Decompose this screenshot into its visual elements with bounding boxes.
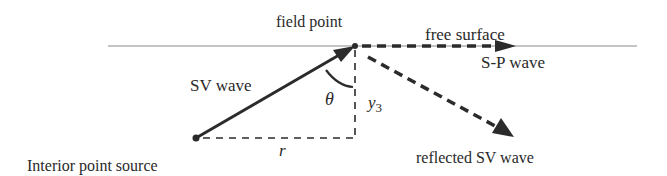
free-surface-label: free surface [425, 25, 505, 44]
y3-label: y3 [366, 93, 382, 115]
theta-label: θ [325, 89, 334, 109]
sp-wave-label: S-P wave [481, 53, 545, 72]
reflected-sv-arrowhead [492, 118, 514, 137]
field-point-label: field point [276, 13, 343, 31]
reflected-sv-ray [368, 57, 497, 127]
sv-wave-arrowhead [333, 46, 355, 62]
r-label: r [279, 141, 286, 160]
reflected-sv-label: reflected SV wave [416, 149, 534, 166]
sv-wave-label: SV wave [190, 76, 252, 95]
source-point-dot [193, 135, 200, 142]
source-label: Interior point source [27, 157, 158, 175]
theta-arc [326, 70, 353, 87]
field-point-dot [352, 43, 358, 49]
wave-diagram: field point free surface S-P wave SV wav… [0, 0, 667, 176]
